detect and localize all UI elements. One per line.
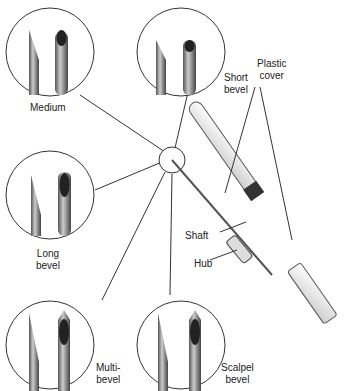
bevel-short [137,8,225,96]
label-plastic-cover: Plasticcover [257,58,286,82]
label-shaft: Shaft [185,230,208,242]
bevel-multi [6,301,94,391]
needle-assembly [172,87,337,324]
bevel-scalpel [137,301,225,391]
bevel-medium [6,8,94,96]
needle-bevel-diagram [0,0,346,391]
label-medium: Medium [30,102,66,114]
label-hub: Hub [194,258,212,270]
label-long-bevel: Longbevel [36,248,60,272]
connector-lines [80,92,188,300]
label-multi-bevel: Multi-bevel [96,362,120,386]
label-scalpel-bevel: Scalpelbevel [221,362,254,386]
label-short-bevel: Shortbevel [224,72,248,96]
bevel-long [6,151,94,239]
